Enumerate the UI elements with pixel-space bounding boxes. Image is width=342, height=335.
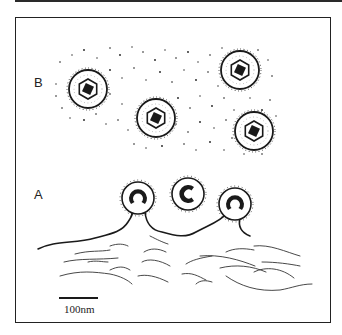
bud-2 — [170, 176, 206, 212]
fibers — [60, 236, 312, 290]
particle-b-2 — [135, 97, 177, 139]
membrane — [38, 210, 250, 249]
particle-b-4 — [233, 110, 275, 152]
bud-3 — [217, 186, 253, 222]
bud-1 — [120, 180, 156, 216]
particle-b-1 — [67, 68, 109, 110]
diagram-canvas — [0, 0, 342, 335]
particle-b-3 — [219, 49, 261, 91]
